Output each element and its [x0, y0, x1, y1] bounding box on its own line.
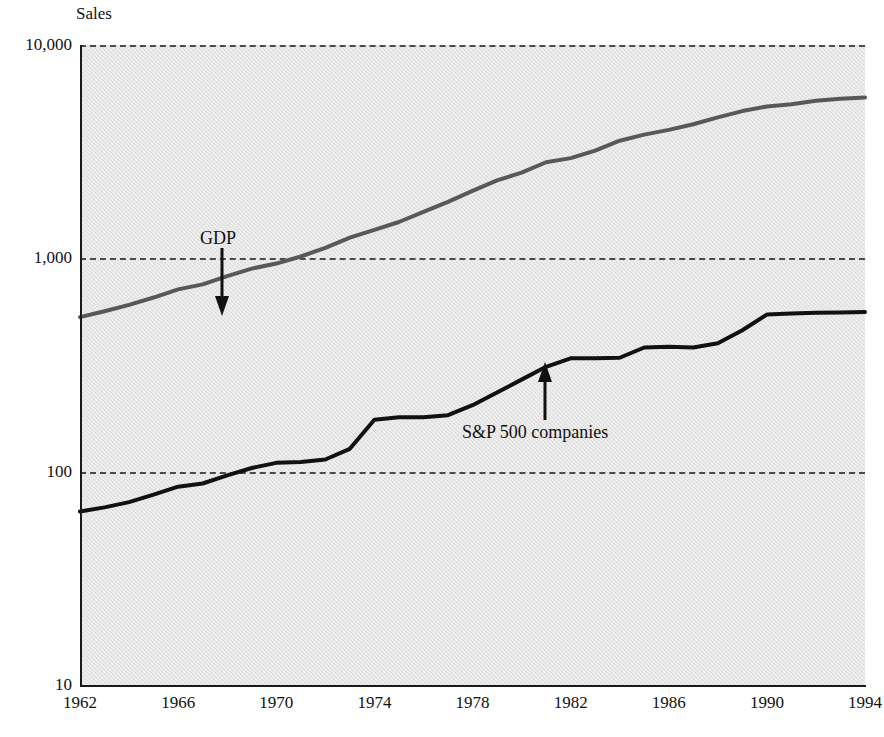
chart-figure: Sales 101001,00010,000 19621966197019741…: [0, 0, 884, 737]
x-tick-label: 1974: [339, 693, 409, 713]
x-tick-label: 1982: [536, 693, 606, 713]
y-tick-label: 1,000: [0, 249, 72, 266]
x-axis-line: [80, 685, 866, 687]
sp500-annotation-label: S&P 500 companies: [462, 422, 608, 442]
y-axis-line: [80, 45, 82, 687]
plot-area: [80, 45, 865, 685]
series-line-s-p-500-companies: [80, 312, 865, 512]
x-tick-label: 1966: [143, 693, 213, 713]
series-layer: [80, 45, 865, 685]
gdp-annotation-arrow-down-icon: [210, 248, 234, 318]
y-axis-title: Sales: [76, 4, 112, 24]
x-tick-label: 1986: [634, 693, 704, 713]
x-tick-label: 1994: [830, 693, 884, 713]
x-tick-label: 1970: [241, 693, 311, 713]
x-tick-label: 1990: [732, 693, 802, 713]
x-tick-label: 1962: [45, 693, 115, 713]
x-tick-label: 1978: [438, 693, 508, 713]
y-tick-label: 100: [0, 463, 72, 480]
sp500-annotation-arrow-up-icon: [533, 362, 557, 424]
y-tick-label: 10,000: [0, 36, 72, 53]
y-tick-label: 10: [0, 676, 72, 693]
series-line-gdp: [80, 97, 865, 317]
gdp-annotation-label: GDP: [200, 228, 236, 248]
